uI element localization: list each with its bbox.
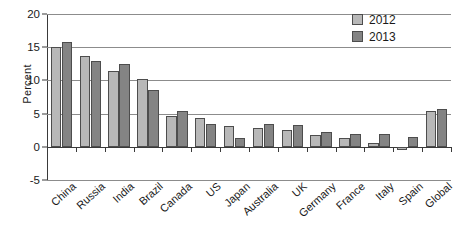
- x-tick-mark-8: [307, 147, 308, 152]
- x-tick-mark-12: [422, 147, 423, 152]
- legend-swatch-2013-icon: [352, 31, 363, 42]
- x-tick-mark-6: [249, 147, 250, 152]
- x-tick-mark-0: [76, 147, 77, 152]
- legend: 2012 2013: [352, 12, 444, 46]
- x-tick-mark-5: [220, 147, 221, 152]
- x-tick-mark-2: [134, 147, 135, 152]
- x-tick-mark-13: [451, 147, 452, 152]
- x-axis-label-russia: Russia: [74, 180, 107, 211]
- x-axis-label-global: Global: [422, 180, 454, 210]
- legend-swatch-2012-icon: [352, 14, 363, 25]
- legend-label-2013: 2013: [369, 30, 396, 44]
- x-tick-mark-7: [278, 147, 279, 152]
- bar-chart: Percent 20151050-5 ChinaRussiaIndiaBrazi…: [0, 0, 461, 233]
- legend-item-2012: 2012: [352, 12, 444, 27]
- x-tick-mark-3: [162, 147, 163, 152]
- x-tick-mark-9: [336, 147, 337, 152]
- legend-item-2013: 2013: [352, 29, 444, 44]
- x-tick-mark-1: [105, 147, 106, 152]
- x-axis-label-italy: Italy: [373, 180, 396, 202]
- x-tick-mark-11: [393, 147, 394, 152]
- x-tick-mark-10: [364, 147, 365, 152]
- x-axis-label-us: US: [203, 180, 222, 199]
- legend-label-2012: 2012: [369, 13, 396, 27]
- x-axis-label-india: India: [110, 180, 136, 205]
- x-axis-label-spain: Spain: [396, 180, 425, 208]
- x-axis-label-france: France: [334, 180, 367, 212]
- x-tick-mark-4: [191, 147, 192, 152]
- x-axis-label-canada: Canada: [157, 180, 194, 215]
- x-axis-labels: ChinaRussiaIndiaBrazilCanadaUSJapanAustr…: [47, 180, 451, 233]
- x-axis-label-china: China: [49, 180, 78, 208]
- x-axis-label-uk: UK: [290, 180, 309, 199]
